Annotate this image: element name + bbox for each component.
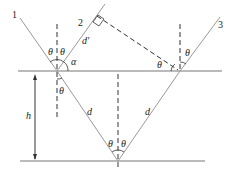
alpha-label: α xyxy=(71,56,77,67)
thin-film-diagram: 1 2 3 θ θ α d' θ h d d θ θ θ θ xyxy=(0,0,233,174)
ray-1-incident xyxy=(20,18,57,71)
ray-2-reflected xyxy=(57,4,105,71)
arc-entry-below xyxy=(57,78,62,79)
theta-below-entry: θ xyxy=(59,85,64,96)
wavefront xyxy=(97,16,178,70)
theta-exit-right: θ xyxy=(185,47,190,58)
ray-label-3: 3 xyxy=(218,19,223,30)
theta-bottom-left: θ xyxy=(108,138,113,149)
d-left-label: d xyxy=(87,106,93,117)
h-arrow-head-bottom xyxy=(33,154,37,160)
h-label: h xyxy=(26,110,31,121)
arc-exit-right xyxy=(180,62,186,64)
theta-entry-right: θ xyxy=(60,46,65,57)
d-prime-label: d' xyxy=(82,35,90,46)
ray-3-exit xyxy=(180,17,220,71)
theta-bottom-right: θ xyxy=(121,138,126,149)
diagram-canvas: 1 2 3 θ θ α d' θ h d d θ θ θ θ xyxy=(0,0,233,174)
arc-alpha xyxy=(64,62,68,71)
ray-label-1: 1 xyxy=(12,9,17,20)
ray-label-2: 2 xyxy=(78,17,83,28)
h-arrow-head-top xyxy=(33,74,37,80)
theta-entry-left: θ xyxy=(48,46,53,57)
d-right-label: d xyxy=(145,106,151,117)
theta-exit-left: θ xyxy=(157,59,162,70)
